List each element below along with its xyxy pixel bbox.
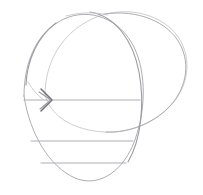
sketch-drawing xyxy=(0,0,203,195)
paper-background xyxy=(0,0,203,195)
sketch-canvas xyxy=(0,0,203,195)
